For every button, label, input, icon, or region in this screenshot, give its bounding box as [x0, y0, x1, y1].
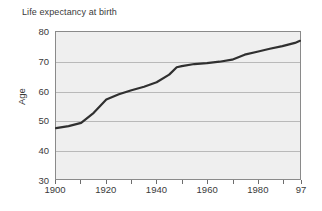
- y-tick-label: 70: [38, 55, 49, 66]
- x-tick-label: 1920: [95, 184, 116, 195]
- y-tick-label: 80: [38, 26, 49, 37]
- y-tick-label: 60: [38, 85, 49, 96]
- chart-figure: Life expectancy at birth 304050607080 Ag…: [0, 0, 322, 211]
- data-line: [56, 41, 300, 128]
- x-tick-label: 1960: [197, 184, 218, 195]
- y-tick-label: 50: [38, 115, 49, 126]
- x-tick-label: 97: [296, 184, 307, 195]
- y-axis-title: Age: [16, 88, 27, 105]
- x-axis-tick-labels: 1900192019401960198097: [0, 184, 322, 204]
- y-tick-label: 40: [38, 145, 49, 156]
- x-tick-label: 1980: [247, 184, 268, 195]
- x-tick-label: 1900: [44, 184, 65, 195]
- plot-area: [55, 31, 301, 180]
- x-tick-label: 1940: [146, 184, 167, 195]
- series-line-chart: [56, 32, 300, 179]
